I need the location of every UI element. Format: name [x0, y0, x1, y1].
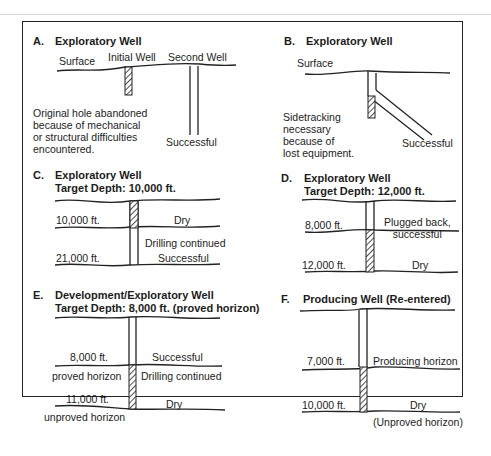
- d-depth2: 12,000 ft.: [302, 259, 346, 271]
- f-letter: F.: [281, 293, 290, 306]
- f-7000-line: [302, 367, 460, 370]
- c-letter: C.: [33, 169, 44, 182]
- d-label1: Plugged back, successful: [384, 216, 451, 240]
- a-second-well-label: Second Well: [168, 51, 227, 63]
- f-plugged-section: [360, 367, 367, 412]
- c-title: Exploratory Well: [55, 169, 142, 182]
- c-depth1: 10,000 ft.: [56, 214, 100, 226]
- e-label3: Dry: [166, 398, 182, 410]
- d-depth1: 8,000 ft.: [305, 219, 343, 231]
- e-label2: Drilling continued: [141, 370, 222, 382]
- e-8000-line: [55, 364, 222, 366]
- e-subtitle: Target Depth: 8,000 ft. (proved horizon): [55, 302, 260, 315]
- f-title: Producing Well (Re-entered): [303, 293, 451, 306]
- f-surface-line: [300, 308, 455, 311]
- e-depth1: 8,000 ft.: [70, 351, 108, 363]
- e-surface-line: [55, 317, 220, 319]
- c-cement-plug: [130, 201, 138, 228]
- e-letter: E.: [33, 289, 43, 302]
- d-title: Exploratory Well: [304, 172, 391, 185]
- b-surface-line: [305, 71, 450, 75]
- f-label1: Producing horizon: [373, 355, 458, 367]
- a-initial-well-label: Initial Well: [108, 51, 156, 63]
- e-horizon1: proved horizon: [52, 370, 121, 382]
- d-label2: Dry: [412, 259, 428, 271]
- f-label2: Dry: [410, 399, 426, 411]
- f-depth1: 7,000 ft.: [307, 355, 345, 367]
- f-depth2: 10,000 ft.: [302, 399, 346, 411]
- d-plugged-section: [366, 230, 374, 272]
- e-label1: Successful: [152, 351, 203, 363]
- a-letter: A.: [33, 35, 44, 48]
- a-result: Successful: [166, 136, 217, 148]
- b-plugged-section: [368, 96, 375, 118]
- a-surface-label: Surface: [59, 55, 95, 67]
- c-label1: Dry: [174, 214, 190, 226]
- d-subtitle: Target Depth: 12,000 ft.: [304, 185, 425, 198]
- c-label2: Drilling continued: [145, 237, 226, 249]
- f-label3: (Unproved horizon): [373, 416, 463, 428]
- d-12000-line: [305, 271, 458, 273]
- a-note: Original hole abandoned because of mecha…: [33, 107, 147, 155]
- c-label3: Successful: [158, 252, 209, 264]
- b-letter: B.: [284, 35, 295, 48]
- d-surface-line: [302, 199, 456, 202]
- a-abandoned-hole: [125, 67, 132, 95]
- a-title: Exploratory Well: [55, 35, 142, 48]
- d-letter: D.: [281, 172, 292, 185]
- c-subtitle: Target Depth: 10,000 ft.: [55, 182, 176, 195]
- b-note: Sidetracking necessary because of lost e…: [283, 111, 354, 159]
- e-title: Development/Exploratory Well: [55, 289, 214, 302]
- b-result: Successful: [402, 137, 453, 149]
- f-10000-line: [302, 411, 460, 412]
- e-depth2: 11,000 ft.: [66, 393, 109, 405]
- b-surface-label: Surface: [297, 57, 333, 69]
- e-11000-line: [55, 405, 225, 410]
- e-horizon2: unproved horizon: [44, 411, 125, 423]
- e-plugged-section: [129, 365, 136, 409]
- b-title: Exploratory Well: [306, 35, 393, 48]
- c-depth2: 21,000 ft.: [56, 252, 100, 264]
